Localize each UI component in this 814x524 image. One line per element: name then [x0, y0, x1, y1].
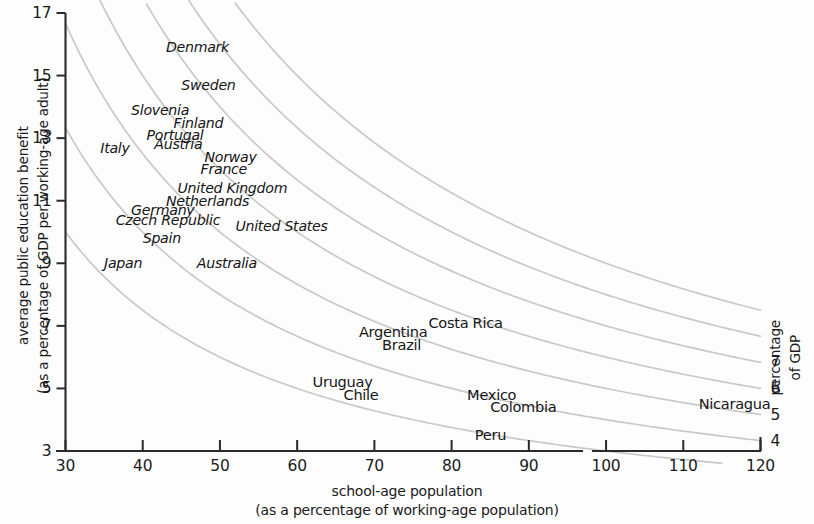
data-label-chile: Chile	[344, 388, 379, 403]
iso-curve-9	[235, 3, 760, 310]
x-axis-title-line2: (as a percentage of working-age populati…	[0, 501, 814, 520]
data-label-united-states: United States	[235, 219, 327, 233]
data-label-denmark: Denmark	[166, 40, 229, 54]
data-label-austria: Austria	[154, 137, 202, 151]
y-axis-title-line2: (as a percentage of GDP per working-age …	[34, 16, 54, 456]
data-label-france: France	[201, 162, 247, 176]
data-label-costa-rica: Costa Rica	[428, 316, 502, 331]
x-tick-label-100: 100	[576, 457, 636, 475]
right-axis-title-line1: percentage	[767, 320, 783, 395]
data-label-nicaragua: Nicaragua	[699, 397, 771, 412]
data-label-sweden: Sweden	[181, 78, 235, 92]
x-tick-group	[66, 440, 761, 451]
data-label-colombia: Colombia	[490, 400, 556, 415]
y-axis-title-line1: average public education benefit	[15, 126, 31, 344]
x-tick-label-90: 90	[499, 457, 559, 475]
data-label-australia: Australia	[197, 256, 257, 270]
chart-figure: 357911131517 30405060708090100110120 765…	[0, 0, 814, 524]
iso-curve-4	[66, 128, 761, 441]
x-tick-label-120: 120	[731, 457, 791, 475]
curve-value-label-4: 4	[771, 432, 781, 450]
data-label-japan: Japan	[104, 256, 142, 270]
x-tick-label-30: 30	[36, 457, 96, 475]
data-label-peru: Peru	[475, 428, 506, 443]
x-tick-label-60: 60	[267, 457, 327, 475]
data-label-italy: Italy	[100, 141, 129, 155]
data-label-czech-republic: Czech Republic	[116, 213, 220, 227]
right-axis-title: percentage of GDP	[766, 298, 805, 418]
x-tick-label-70: 70	[344, 457, 404, 475]
x-tick-label-80: 80	[422, 457, 482, 475]
x-tick-label-40: 40	[113, 457, 173, 475]
y-axis-title: average public education benefit (as a p…	[14, 16, 53, 456]
x-axis-title-line1: school-age population	[332, 483, 483, 499]
data-label-brazil: Brazil	[382, 338, 421, 353]
x-axis-title: school-age population (as a percentage o…	[0, 482, 814, 520]
x-tick-label-110: 110	[653, 457, 713, 475]
x-tick-label-50: 50	[190, 457, 250, 475]
y-tick-group	[57, 13, 66, 451]
right-axis-title-line2: of GDP	[786, 298, 806, 418]
data-label-spain: Spain	[143, 231, 181, 245]
